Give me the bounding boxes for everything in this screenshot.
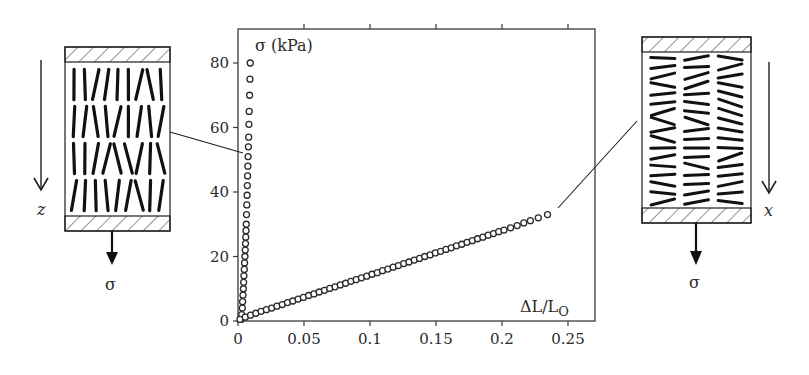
- y-tick-label: 80: [210, 54, 229, 72]
- data-point: [244, 183, 250, 189]
- figure-canvas: 00.050.10.150.20.25 020406080 σ (kPa) ΔL…: [0, 0, 809, 375]
- y-tick-label: 20: [210, 248, 229, 266]
- load-arrow-right: [690, 223, 702, 265]
- plot-area: [238, 29, 595, 321]
- direction-arrow-x: [762, 62, 776, 193]
- data-point: [247, 60, 253, 66]
- load-label-left: σ: [105, 275, 116, 294]
- y-tick-label: 40: [210, 183, 229, 201]
- y-axis: 020406080: [210, 54, 238, 330]
- direction-arrow-z: [34, 60, 48, 190]
- fibre: [718, 148, 742, 149]
- fibre: [684, 183, 708, 184]
- data-point: [535, 215, 541, 221]
- data-point: [244, 192, 250, 198]
- stress-strain-figure: 00.050.10.150.20.25 020406080 σ (kPa) ΔL…: [0, 0, 809, 375]
- data-point: [243, 234, 249, 240]
- bottom-clamp-plate: [642, 208, 751, 223]
- data-point: [240, 286, 246, 292]
- leader-line: [170, 132, 243, 153]
- data-point: [245, 144, 251, 150]
- data-point: [545, 212, 551, 218]
- y-tick-label: 0: [219, 312, 229, 330]
- data-point: [247, 92, 253, 98]
- left-sample-schematic: z σ: [34, 47, 170, 294]
- fibre: [73, 143, 74, 173]
- data-point: [239, 305, 245, 311]
- fibre: [84, 69, 85, 99]
- x-axis-label-subscript: O: [558, 304, 569, 319]
- fibre: [684, 138, 708, 139]
- data-point: [242, 241, 248, 247]
- plot-frame: [238, 29, 595, 321]
- data-point: [241, 279, 247, 285]
- data-point: [246, 108, 252, 114]
- fibre: [651, 58, 675, 59]
- data-point: [242, 260, 248, 266]
- data-point: [247, 76, 253, 82]
- x-tick-label: 0.25: [551, 330, 584, 348]
- data-point: [242, 254, 248, 260]
- data-point: [521, 220, 527, 226]
- data-point: [241, 266, 247, 272]
- fibre: [95, 180, 96, 210]
- fibre: [684, 93, 708, 94]
- load-arrow-left: [106, 231, 118, 265]
- fibre: [718, 192, 742, 194]
- right-sample-schematic: x σ: [642, 37, 776, 292]
- direction-label-x: x: [764, 201, 773, 220]
- fibre: [684, 156, 708, 157]
- data-point: [501, 227, 507, 233]
- data-point: [243, 221, 249, 227]
- y-axis-label: σ (kPa): [255, 36, 313, 55]
- x-tick-label: 0.2: [490, 330, 514, 348]
- data-point: [240, 299, 246, 305]
- fibre: [684, 175, 708, 176]
- data-point: [244, 202, 250, 208]
- fibre: [117, 69, 118, 99]
- x-axis-label-main: ΔL/L: [520, 297, 559, 316]
- data-point: [245, 173, 251, 179]
- fibre: [651, 165, 675, 167]
- top-clamp-plate: [65, 47, 170, 62]
- data-point: [246, 121, 252, 127]
- data-point: [242, 247, 248, 253]
- top-clamp-plate: [642, 37, 751, 52]
- x-axis-label: ΔL/LO: [520, 297, 569, 319]
- data-point: [245, 154, 251, 160]
- data-point: [244, 212, 250, 218]
- fibre: [150, 143, 151, 173]
- leader-lines: [170, 121, 637, 208]
- data-point: [514, 223, 520, 229]
- leader-line: [558, 121, 637, 208]
- fibre: [684, 67, 708, 68]
- direction-label-z: z: [36, 200, 46, 219]
- y-tick-label: 60: [210, 119, 229, 137]
- data-point: [527, 218, 533, 224]
- fibre: [84, 180, 85, 210]
- data-point: [241, 273, 247, 279]
- data-point: [508, 225, 514, 231]
- x-tick-label: 0.05: [287, 330, 320, 348]
- x-tick-label: 0.1: [358, 330, 382, 348]
- x-tick-label: 0.15: [419, 330, 452, 348]
- x-tick-label: 0: [233, 330, 243, 348]
- fibre: [150, 180, 151, 210]
- fibre: [73, 106, 74, 136]
- data-point: [240, 292, 246, 298]
- data-series-x: [237, 212, 551, 323]
- fibre: [160, 69, 161, 99]
- data-point: [246, 134, 252, 140]
- bottom-clamp-plate: [65, 216, 170, 231]
- data-series-z: [238, 60, 253, 322]
- data-point: [243, 228, 249, 234]
- load-label-right: σ: [689, 273, 700, 292]
- data-point: [245, 163, 251, 169]
- fibre: [651, 174, 675, 176]
